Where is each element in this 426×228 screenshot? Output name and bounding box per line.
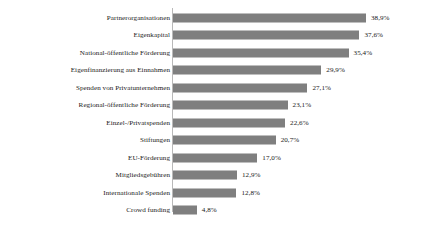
bar-track: 12,8%	[173, 188, 260, 197]
bar-value-label: 20,7%	[281, 136, 300, 145]
bar-row: Einzel-/Privatspenden22,6%	[0, 114, 426, 132]
bar-fill	[173, 48, 349, 57]
bar-fill	[173, 13, 366, 22]
bar-category-label: Mitgliedsgebühren	[116, 171, 170, 180]
bar-track: 27,1%	[173, 83, 331, 92]
bar-row: Eigenkapital37,6%	[0, 27, 426, 45]
bar-fill	[173, 66, 321, 75]
bar-value-label: 27,1%	[312, 83, 331, 92]
bar-category-label: Eigenkapital	[134, 31, 170, 40]
bar-value-label: 37,6%	[364, 31, 383, 40]
bar-category-label: Einzel-/Privatspenden	[106, 118, 170, 127]
bar-value-label: 17,0%	[262, 153, 281, 162]
bar-value-label: 12,8%	[241, 188, 260, 197]
bar-row: Spenden von Privatunternehmen27,1%	[0, 79, 426, 97]
bar-value-label: 38,9%	[371, 13, 390, 22]
bar-track: 23,1%	[173, 101, 311, 110]
bar-chart: Partnerorganisationen38,9%Eigenkapital37…	[0, 0, 426, 228]
bar-category-label: Spenden von Privatunternehmen	[76, 83, 170, 92]
bar-category-label: Internationale Spenden	[103, 188, 170, 197]
bar-category-label: Crowd funding	[126, 206, 170, 215]
bar-fill	[173, 171, 237, 180]
bar-fill	[173, 136, 276, 145]
bar-value-label: 35,4%	[354, 48, 373, 57]
bar-track: 12,9%	[173, 171, 261, 180]
bar-track: 20,7%	[173, 136, 299, 145]
bar-track: 29,9%	[173, 66, 345, 75]
bar-fill	[173, 188, 236, 197]
bar-category-label: Eigenfinanzierung aus Einnahmen	[71, 66, 170, 75]
bar-track: 17,0%	[173, 153, 281, 162]
bar-value-label: 23,1%	[293, 101, 312, 110]
bar-value-label: 12,9%	[242, 171, 261, 180]
bar-category-label: Stiftungen	[140, 136, 170, 145]
bar-category-label: Partnerorganisationen	[107, 13, 170, 22]
bar-fill	[173, 206, 197, 215]
bar-value-label: 4,8%	[202, 206, 217, 215]
bar-row: Mitgliedsgebühren12,9%	[0, 167, 426, 185]
bar-fill	[173, 153, 257, 162]
bar-row: Regional-öffentliche Förderung23,1%	[0, 97, 426, 115]
bar-fill	[173, 31, 359, 40]
bar-row: Internationale Spenden12,8%	[0, 184, 426, 202]
bar-track: 37,6%	[173, 31, 383, 40]
bar-category-label: National-öffentliche Förderung	[80, 48, 170, 57]
bar-row: Crowd funding4,8%	[0, 202, 426, 220]
bar-row: National-öffentliche Förderung35,4%	[0, 44, 426, 62]
bar-fill	[173, 101, 288, 110]
bar-row: Eigenfinanzierung aus Einnahmen29,9%	[0, 62, 426, 80]
bar-track: 35,4%	[173, 48, 372, 57]
bar-category-label: Regional-öffentliche Förderung	[79, 101, 170, 110]
plot-area: Partnerorganisationen38,9%Eigenkapital37…	[0, 0, 426, 228]
bar-fill	[173, 118, 285, 127]
bar-value-label: 29,9%	[326, 66, 345, 75]
bar-row: EU-Förderung17,0%	[0, 149, 426, 167]
bar-value-label: 22,6%	[290, 118, 309, 127]
bar-row: Partnerorganisationen38,9%	[0, 9, 426, 27]
bar-category-label: EU-Förderung	[128, 153, 170, 162]
bar-fill	[173, 83, 307, 92]
bar-track: 38,9%	[173, 13, 390, 22]
bar-track: 4,8%	[173, 206, 217, 215]
bar-row: Stiftungen20,7%	[0, 132, 426, 150]
bar-track: 22,6%	[173, 118, 309, 127]
